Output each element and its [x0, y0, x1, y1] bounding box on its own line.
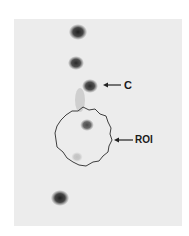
- spot-2: [68, 56, 84, 70]
- arrow-roi: [114, 138, 133, 143]
- spot-1: [69, 24, 87, 40]
- label-roi: ROI: [135, 135, 153, 145]
- arrow-c: [103, 83, 121, 88]
- spot-bottom: [51, 190, 69, 206]
- spot-c: [82, 79, 98, 93]
- spot-roi-upper: [80, 119, 94, 131]
- spots-group: [51, 24, 98, 206]
- figure-canvas: [0, 0, 189, 236]
- label-c: C: [124, 80, 132, 91]
- roi-contour: [55, 107, 112, 166]
- spot-roi-faint: [71, 152, 83, 162]
- streak: [75, 88, 85, 112]
